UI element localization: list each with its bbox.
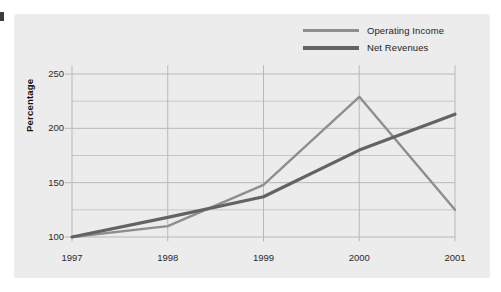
x-tick-label: 1998 xyxy=(157,252,178,263)
legend-label: Operating Income xyxy=(367,25,444,36)
y-tick-label: 250 xyxy=(24,68,64,79)
y-tick-label: 200 xyxy=(24,122,64,133)
legend-item-net-revenues: Net Revenues xyxy=(303,39,483,56)
legend-swatch-icon xyxy=(303,29,359,32)
x-tick-label: 1999 xyxy=(253,252,274,263)
chart-figure: Percentage 100150200250 1997199819992000… xyxy=(0,0,501,292)
legend-swatch-icon xyxy=(303,46,359,50)
x-tick-label: 2001 xyxy=(444,252,465,263)
x-tick-label: 1997 xyxy=(61,252,82,263)
x-axis-ticks: 19971998199920002001 xyxy=(0,252,501,268)
chart-legend: Operating Income Net Revenues xyxy=(303,22,483,56)
y-tick-label: 100 xyxy=(24,231,64,242)
legend-item-operating-income: Operating Income xyxy=(303,22,483,39)
x-tick-label: 2000 xyxy=(349,252,370,263)
gridlines xyxy=(65,65,455,241)
y-tick-label: 150 xyxy=(24,177,64,188)
legend-label: Net Revenues xyxy=(367,42,428,53)
y-axis-ticks: 100150200250 xyxy=(22,0,64,292)
